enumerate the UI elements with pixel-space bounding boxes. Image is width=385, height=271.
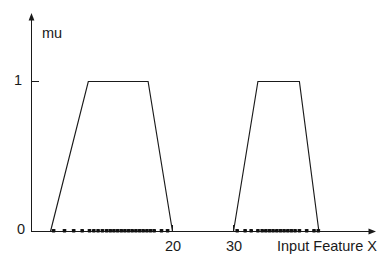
y-tick-label-0: 0 [17,222,25,237]
fuzzy-membership-chart: mu 1 0 20 30 Input Feature X [0,0,385,271]
y-axis-arrowhead [29,13,35,21]
data-point [80,229,84,233]
y-tick-label-1: 1 [14,73,22,88]
data-point [141,229,145,233]
data-point [286,229,290,233]
data-point [88,229,92,233]
data-point [275,229,279,233]
y-axis [29,13,35,232]
data-point [235,229,239,233]
data-point [149,229,153,233]
data-point [271,229,275,233]
data-point [260,229,264,233]
data-point [256,229,260,233]
data-point [120,229,124,233]
data-point [305,229,309,233]
data-point [123,229,127,233]
data-point [72,229,76,233]
data-point [145,229,149,233]
data-point [279,229,283,233]
data-point [52,229,56,233]
x-tick-label-20: 20 [165,239,181,254]
data-point [282,229,286,233]
y-axis-label: mu [42,26,62,41]
data-point [101,229,105,233]
data-point [312,229,316,233]
x-tick-label-30: 30 [226,239,242,254]
data-point [138,229,142,233]
data-point [249,229,253,233]
data-point [243,229,247,233]
data-point [152,229,156,233]
data-point [134,229,138,233]
data-point [109,229,113,233]
data-point [96,229,100,233]
data-point [130,229,134,233]
x-axis-title: Input Feature X [277,239,377,254]
data-point [63,229,67,233]
membership-function-low-curve [51,82,173,232]
membership-function-high-curve [234,82,319,232]
data-point [105,229,109,233]
data-point [317,229,321,233]
data-point [166,229,170,233]
data-point [293,229,297,233]
data-point [290,229,294,233]
data-point [264,229,268,233]
data-point [112,229,116,233]
data-point [298,229,302,233]
data-point [116,229,120,233]
x-axis-arrowhead [369,229,377,235]
data-point [268,229,272,233]
data-point [127,229,131,233]
data-point [92,229,96,233]
data-point [160,229,164,233]
